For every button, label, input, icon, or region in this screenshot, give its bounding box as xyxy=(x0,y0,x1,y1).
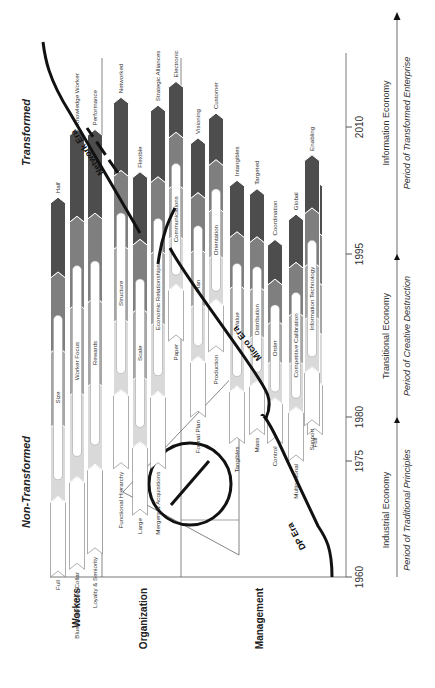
chevron-stage-1 xyxy=(70,477,85,570)
column-to-label: Global xyxy=(292,192,299,210)
economy-label-transitional: Transitional Economy xyxy=(381,292,391,379)
chevron-stage-5 xyxy=(191,138,206,199)
column-mid-label: Size xyxy=(54,391,61,404)
chevron-stage-5 xyxy=(250,189,265,243)
tick-2010: 2010 xyxy=(346,115,365,138)
column-to-label: Visioning xyxy=(194,108,201,134)
chevron-stage-1 xyxy=(169,284,184,341)
transformation-diagram: FullSizeHalfBlue-Collar/White-CollarWork… xyxy=(0,0,435,688)
period-arrow-end xyxy=(394,12,401,20)
column-from-label: Support xyxy=(308,429,315,451)
tick-1995: 1995 xyxy=(346,242,365,265)
column-to-label: Strategic Alliances xyxy=(154,51,161,102)
column-mid-label: Orientation xyxy=(212,224,219,255)
chevron-stage-1 xyxy=(88,464,103,554)
chevron-stage-5 xyxy=(151,105,166,183)
transition-column: Blue-Collar/White-CollarWorker FocusKnow… xyxy=(70,73,85,638)
chevron-stage-5 xyxy=(305,155,320,214)
column-from-label: Loyalty & Seniority xyxy=(91,556,98,608)
year-axis: 1960 1975 1980 1995 2010 Industrial Econ… xyxy=(346,80,391,588)
chevron-stage-5 xyxy=(51,197,66,278)
column-mid-label: Competitive Calibration xyxy=(292,313,299,378)
transformed-label: Transformed xyxy=(20,99,32,166)
year-label-1980: 1980 xyxy=(354,405,365,428)
chevron-stage-5 xyxy=(289,214,304,268)
column-from-label: Control xyxy=(271,446,278,466)
transition-column: LargeScaleFlexible xyxy=(133,146,148,534)
row-label-workers: Workers xyxy=(71,588,82,628)
column-mid-label: Communications xyxy=(172,196,179,242)
transition-column: MultinationalCompetitive CalibrationGlob… xyxy=(289,192,304,499)
chevron-stage-1 xyxy=(289,407,304,461)
column-from-label: Tangibles xyxy=(233,446,240,472)
year-label-2010: 2010 xyxy=(354,115,365,138)
tick-1960: 1960 xyxy=(346,565,365,588)
chevron-stage-1 xyxy=(133,442,148,515)
tick-1980: 1980 xyxy=(346,405,365,428)
column-mid-label: Distribution xyxy=(253,303,260,335)
column-to-label: Targeted xyxy=(253,160,260,185)
column-to-label: Networked xyxy=(117,63,124,93)
transition-column: FullSizeHalf xyxy=(51,182,66,590)
chevron-stage-1 xyxy=(191,356,206,417)
transition-column: Functional HierarchyStructureNetworked xyxy=(114,63,129,528)
column-mid-label: Worker Focus xyxy=(73,342,80,380)
chevron-stage-5 xyxy=(133,172,148,245)
column-to-label: Flexible xyxy=(136,146,143,168)
chevron-stage-5 xyxy=(209,113,224,166)
column-to-label: Electronic xyxy=(172,50,179,77)
period-arrow-1995 xyxy=(394,254,400,260)
year-label-1995: 1995 xyxy=(354,242,365,265)
column-mid-label: Structure xyxy=(117,280,124,306)
period-label-traditional: Period of Traditional Principles xyxy=(402,449,412,571)
period-label-transformed: Period of Transformed Enterprise xyxy=(402,57,412,189)
column-from-label: Production xyxy=(212,354,219,384)
economy-label-information: Information Economy xyxy=(381,80,391,166)
period-timeline: Period of Traditional Principles Period … xyxy=(394,12,413,577)
chevron-stage-1 xyxy=(230,386,245,443)
column-from-label: Functional Hierarchy xyxy=(117,471,124,529)
column-from-label: Mergers & Acquisitions xyxy=(154,472,161,535)
transition-column: MassDistributionTargeted xyxy=(250,160,265,452)
transition-column: Mergers & AcquisitionsEconomic Relations… xyxy=(151,51,166,535)
column-to-label: Intangibles xyxy=(233,146,240,176)
chevron-stage-1 xyxy=(250,381,265,435)
economy-label-industrial: Industrial Economy xyxy=(381,471,391,548)
column-mid-label: Order xyxy=(271,341,278,357)
chevron-stage-1 xyxy=(151,391,166,469)
column-mid-label: Scale xyxy=(136,345,143,361)
dp-era-label: DP Era xyxy=(285,520,308,551)
tick-1975: 1975 xyxy=(346,449,365,472)
column-from-label: Paper xyxy=(172,344,179,361)
column-from-label: Full xyxy=(54,580,61,590)
row-labels: Workers Organization Management xyxy=(71,587,265,649)
column-from-label: Mass xyxy=(253,438,260,453)
column-to-label: Half xyxy=(54,182,61,193)
non-transformed-label: Non-Transformed xyxy=(20,436,32,528)
column-to-label: Enabling xyxy=(308,126,315,151)
column-from-label: Large xyxy=(136,518,143,534)
row-label-management: Management xyxy=(254,587,265,649)
column-to-label: Customer xyxy=(212,82,219,109)
period-arrow-1980 xyxy=(394,417,400,423)
row-label-organization: Organization xyxy=(138,588,149,649)
column-to-label: Coordination xyxy=(271,200,278,236)
column-to-label: Performance xyxy=(91,89,98,125)
chevron-stage-5 xyxy=(268,240,283,286)
chevron-stage-1 xyxy=(51,496,66,577)
chevron-stage-5 xyxy=(114,97,129,176)
transition-column: Formal PlanPlanVisioning xyxy=(191,108,206,453)
transition-column: ProductionOrientationCustomer xyxy=(209,82,224,384)
transition-columns: FullSizeHalfBlue-Collar/White-CollarWork… xyxy=(51,50,323,638)
year-label-1975: 1975 xyxy=(354,449,365,472)
chevron-stage-5 xyxy=(169,82,184,139)
chevron-stage-1 xyxy=(114,390,129,469)
period-label-creative-destruction: Period of Creative Destruction xyxy=(402,276,412,396)
prohibition-slash-icon xyxy=(171,461,209,505)
column-mid-label: Economic Relationships xyxy=(154,264,161,330)
transition-column: PaperCommunicationsElectronic xyxy=(169,50,184,360)
year-label-1960: 1960 xyxy=(354,565,365,588)
chevron-stage-1 xyxy=(305,367,320,426)
diagram-canvas: FullSizeHalfBlue-Collar/White-CollarWork… xyxy=(0,0,435,688)
chevron-stage-5 xyxy=(230,180,245,237)
